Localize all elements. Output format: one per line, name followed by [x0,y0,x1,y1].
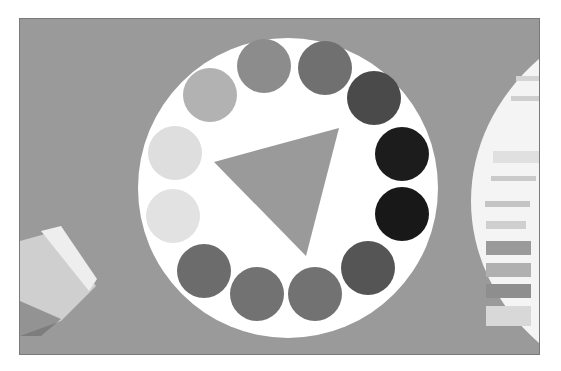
color-swatch [146,189,200,243]
color-swatch [341,241,395,295]
color-swatch [183,68,237,122]
color-swatch [177,244,231,298]
color-swatch [288,267,342,321]
color-swatch [347,71,401,125]
photo-frame [19,18,540,355]
color-swatch [237,39,291,93]
color-swatch [298,41,352,95]
color-swatch [375,187,429,241]
color-swatch [230,267,284,321]
color-wheel-photo [19,18,540,355]
color-swatch [148,126,202,180]
color-swatch [375,127,429,181]
